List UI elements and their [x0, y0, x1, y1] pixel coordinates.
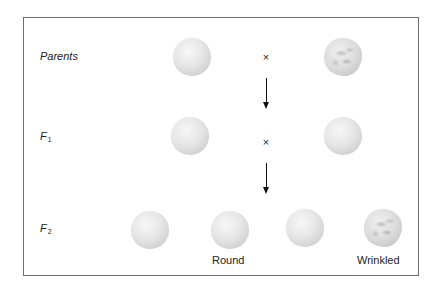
pea-round-f1-left: [171, 117, 209, 155]
label-f2-text: F: [40, 222, 47, 234]
pea-round-f1-right: [324, 117, 362, 155]
label-f1-text: F: [40, 130, 47, 142]
arrow-down-icon: [266, 163, 267, 189]
label-f1-subscript: 1: [48, 136, 52, 143]
phenotype-label-round: Round: [212, 254, 244, 266]
pea-wrinkled-parent: [324, 38, 362, 76]
label-parents: Parents: [40, 50, 78, 62]
cross-symbol-parents: ×: [261, 51, 271, 63]
label-f2-subscript: 2: [48, 228, 52, 235]
label-f1: F1: [40, 130, 52, 143]
pea-round-f2-2: [211, 211, 249, 249]
pea-round-f2-3: [286, 209, 324, 247]
pea-round-parent: [173, 38, 211, 76]
pea-wrinkled-f2: [364, 209, 402, 247]
arrow-down-icon: [266, 78, 267, 104]
phenotype-label-wrinkled: Wrinkled: [357, 254, 400, 266]
label-f2: F2: [40, 222, 52, 235]
label-parents-text: Parents: [40, 50, 78, 62]
pea-round-f2-1: [131, 211, 169, 249]
cross-symbol-f1: ×: [261, 136, 271, 148]
